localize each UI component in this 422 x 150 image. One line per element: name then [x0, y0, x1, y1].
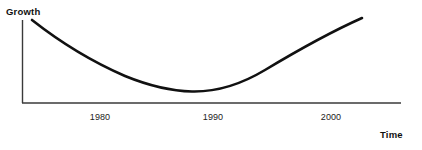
x-tick-label-2000: 2000: [321, 112, 341, 122]
x-tick-label-1980: 1980: [90, 112, 110, 122]
y-axis-title: Growth: [6, 6, 40, 17]
x-axis-title: Time: [380, 129, 403, 140]
growth-curve-line: [32, 18, 362, 92]
chart-plot-area: [0, 0, 422, 150]
growth-over-time-chart: Growth Time 1980 1990 2000: [0, 0, 422, 150]
x-tick-label-1990: 1990: [203, 112, 223, 122]
